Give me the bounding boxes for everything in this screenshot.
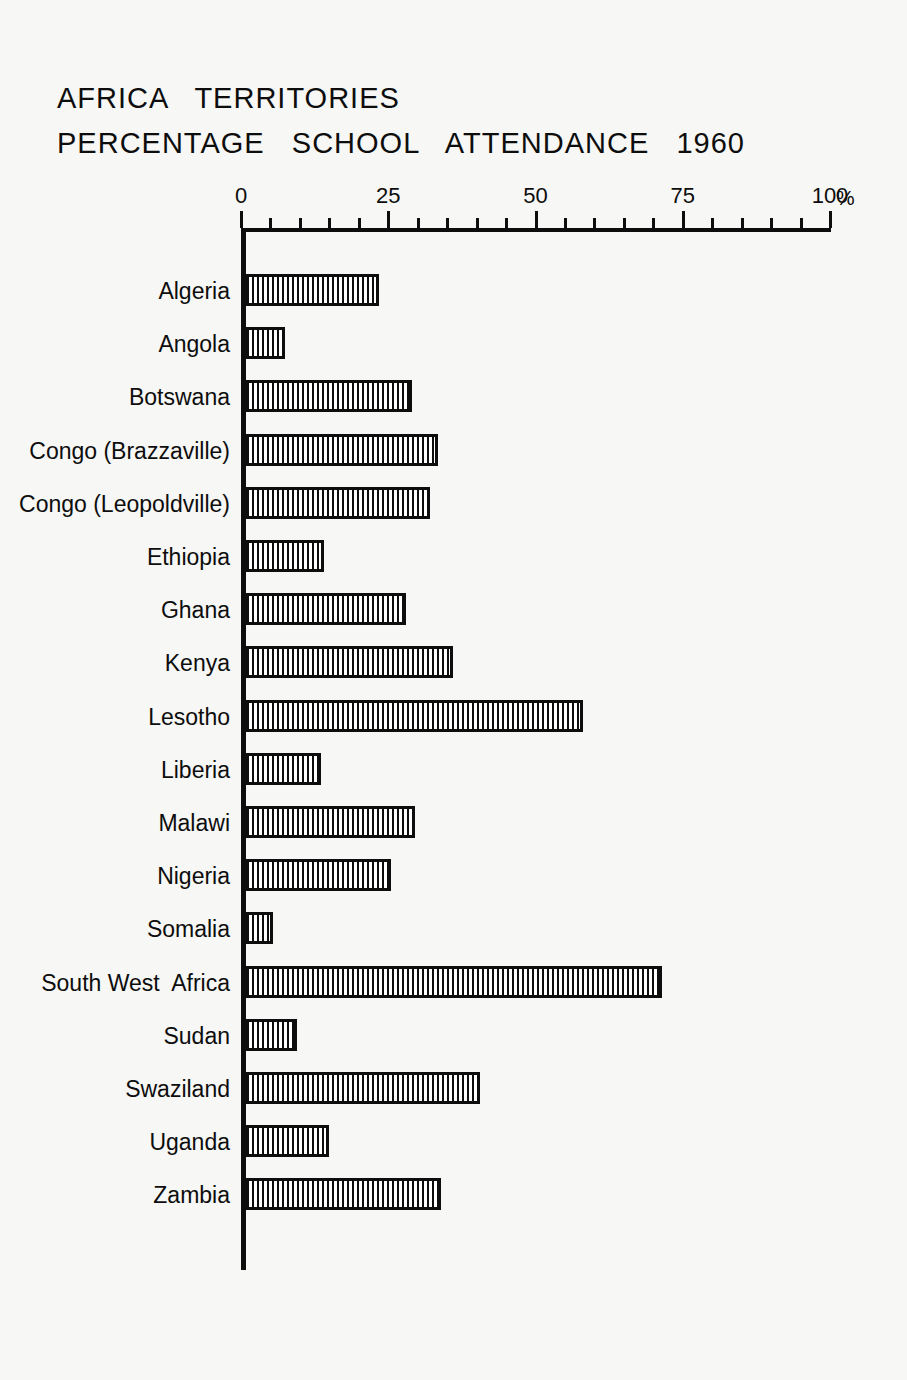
bar-row: Somalia bbox=[0, 912, 907, 946]
x-axis-major-tick bbox=[682, 211, 685, 228]
x-axis-tick-label: 75 bbox=[671, 185, 695, 207]
bar-row: South West Africa bbox=[0, 966, 907, 1000]
bar-row: Malawi bbox=[0, 806, 907, 840]
x-axis-minor-tick bbox=[741, 218, 744, 228]
x-axis-major-tick bbox=[240, 211, 243, 228]
bar-category-label: Malawi bbox=[0, 808, 230, 838]
bar-category-label: Angola bbox=[0, 329, 230, 359]
bar bbox=[244, 274, 379, 306]
bar bbox=[244, 859, 391, 891]
bar bbox=[244, 912, 273, 944]
bar bbox=[244, 1178, 441, 1210]
bar-category-label: Uganda bbox=[0, 1127, 230, 1157]
bar-category-label: Sudan bbox=[0, 1021, 230, 1051]
x-axis-minor-tick bbox=[593, 218, 596, 228]
bar-row: Swaziland bbox=[0, 1072, 907, 1106]
bar-row: Ethiopia bbox=[0, 540, 907, 574]
x-axis-minor-tick bbox=[269, 218, 272, 228]
bar bbox=[244, 487, 430, 519]
x-axis-major-tick bbox=[387, 211, 390, 228]
bar-category-label: Swaziland bbox=[0, 1074, 230, 1104]
x-axis-minor-tick bbox=[652, 218, 655, 228]
bar-category-label: Congo (Brazzaville) bbox=[0, 436, 230, 466]
bar-row: Kenya bbox=[0, 646, 907, 680]
x-axis-minor-tick bbox=[476, 218, 479, 228]
bar bbox=[244, 806, 415, 838]
bar-category-label: Botswana bbox=[0, 382, 230, 412]
x-axis-minor-tick bbox=[358, 218, 361, 228]
bar-row: Congo (Brazzaville) bbox=[0, 434, 907, 468]
bar-row: Botswana bbox=[0, 380, 907, 414]
bar bbox=[244, 434, 438, 466]
chart-page: AFRICA TERRITORIES PERCENTAGE SCHOOL ATT… bbox=[0, 0, 907, 1380]
x-axis-line bbox=[241, 228, 831, 232]
bar-row: Zambia bbox=[0, 1178, 907, 1212]
x-axis-minor-tick bbox=[800, 218, 803, 228]
x-axis-minor-tick bbox=[328, 218, 331, 228]
x-axis-minor-tick bbox=[711, 218, 714, 228]
bar-row: Uganda bbox=[0, 1125, 907, 1159]
percent-symbol: % bbox=[836, 186, 855, 210]
x-axis-minor-tick bbox=[564, 218, 567, 228]
bar-category-label: Algeria bbox=[0, 276, 230, 306]
x-axis-major-tick bbox=[829, 211, 832, 228]
bar bbox=[244, 540, 324, 572]
x-axis-minor-tick bbox=[770, 218, 773, 228]
bar-category-label: Nigeria bbox=[0, 861, 230, 891]
bar-row: Algeria bbox=[0, 274, 907, 308]
x-axis-minor-tick bbox=[446, 218, 449, 228]
bar bbox=[244, 1019, 297, 1051]
bar-category-label: Lesotho bbox=[0, 702, 230, 732]
bar-category-label: Congo (Leopoldville) bbox=[0, 489, 230, 519]
bar-chart-plot: 0255075100 % AlgeriaAngolaBotswanaCongo … bbox=[0, 0, 907, 1380]
bar bbox=[244, 966, 662, 998]
x-axis-minor-tick bbox=[299, 218, 302, 228]
bar bbox=[244, 1072, 480, 1104]
bar-category-label: Ghana bbox=[0, 595, 230, 625]
bar-category-label: Ethiopia bbox=[0, 542, 230, 572]
bar bbox=[244, 753, 321, 785]
bar bbox=[244, 327, 285, 359]
bar-category-label: South West Africa bbox=[0, 968, 230, 998]
x-axis-minor-tick bbox=[623, 218, 626, 228]
x-axis-tick-label: 0 bbox=[235, 185, 247, 207]
bar bbox=[244, 380, 412, 412]
x-axis-tick-label: 50 bbox=[523, 185, 547, 207]
bar-row: Nigeria bbox=[0, 859, 907, 893]
bar bbox=[244, 1125, 329, 1157]
bar-category-label: Somalia bbox=[0, 914, 230, 944]
bar-category-label: Kenya bbox=[0, 648, 230, 678]
bar bbox=[244, 593, 406, 625]
bar-row: Liberia bbox=[0, 753, 907, 787]
bar-row: Ghana bbox=[0, 593, 907, 627]
bar-row: Congo (Leopoldville) bbox=[0, 487, 907, 521]
bar bbox=[244, 646, 453, 678]
bar-row: Angola bbox=[0, 327, 907, 361]
x-axis-major-tick bbox=[535, 211, 538, 228]
bar-category-label: Zambia bbox=[0, 1180, 230, 1210]
bar bbox=[244, 700, 583, 732]
x-axis-minor-tick bbox=[505, 218, 508, 228]
bar-category-label: Liberia bbox=[0, 755, 230, 785]
bar-row: Lesotho bbox=[0, 700, 907, 734]
x-axis-tick-label: 25 bbox=[376, 185, 400, 207]
x-axis-minor-tick bbox=[417, 218, 420, 228]
bar-row: Sudan bbox=[0, 1019, 907, 1053]
